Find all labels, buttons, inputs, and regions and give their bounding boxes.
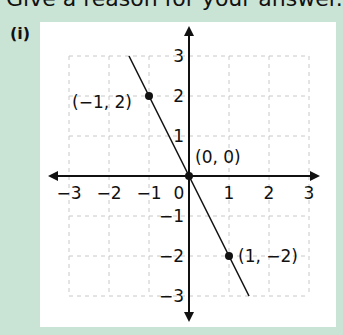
x-tick: 3 [304, 183, 315, 203]
y-tick: 1 [173, 126, 184, 146]
point-label: (−1, 2) [72, 92, 132, 112]
y-tick: −3 [159, 286, 184, 306]
point-origin [185, 172, 193, 180]
y-tick: −2 [159, 246, 184, 266]
point-label: (1, −2) [238, 246, 298, 266]
x-tick: 2 [264, 183, 275, 203]
x-tick: 0 [174, 183, 185, 203]
x-tick: 1 [224, 183, 235, 203]
y-tick: 3 [173, 46, 184, 66]
y-tick: 2 [173, 86, 184, 106]
x-tick: −3 [56, 183, 81, 203]
point-neg1-2 [145, 92, 153, 100]
x-tick: −2 [96, 183, 121, 203]
point-label: (0, 0) [195, 147, 241, 167]
x-tick: −1 [136, 183, 161, 203]
point-1-neg2 [225, 252, 233, 260]
y-tick: −1 [159, 206, 184, 226]
